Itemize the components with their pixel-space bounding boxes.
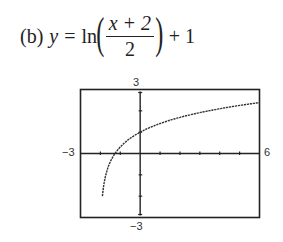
function-curve <box>102 103 259 197</box>
axes <box>81 92 260 216</box>
graph-window <box>0 0 283 242</box>
